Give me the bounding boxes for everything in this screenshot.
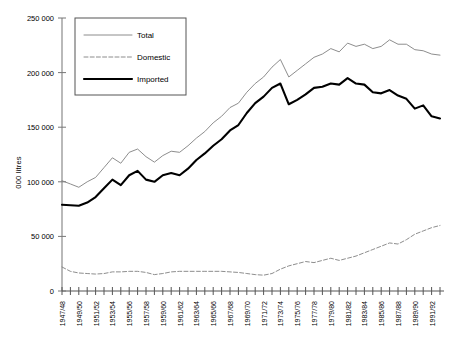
legend-label-imported: Imported xyxy=(137,75,169,84)
x-axis-tick-label: 1989/90 xyxy=(412,301,419,326)
x-axis-tick-label: 1983/84 xyxy=(361,301,368,326)
legend-label-domestic: Domestic xyxy=(137,53,170,62)
x-axis-tick-label: 1947/48 xyxy=(59,301,66,326)
legend-label-total: Total xyxy=(137,31,154,40)
x-axis-tick-label: 1951/52 xyxy=(93,301,100,326)
x-axis-tick-label: 1965/66 xyxy=(210,301,217,326)
y-axis-tick-label: 100 000 xyxy=(27,178,54,187)
x-axis-tick-label: 1979/80 xyxy=(328,301,335,326)
x-axis-tick-label: 1953/54 xyxy=(109,301,116,326)
x-axis-tick-label: 1955/56 xyxy=(126,301,133,326)
line-chart: 050 000100 000150 000200 000250 0001947/… xyxy=(0,0,460,343)
x-axis-tick-label: 1967/68 xyxy=(227,301,234,326)
y-axis-tick-label: 50 000 xyxy=(31,232,54,241)
x-axis-tick-label: 1987/88 xyxy=(395,301,402,326)
x-axis-tick-label: 1975/76 xyxy=(294,301,301,326)
y-axis-tick-label: 200 000 xyxy=(27,69,54,78)
x-axis-tick-label: 1985/86 xyxy=(378,301,385,326)
x-axis-tick-label: 1963/64 xyxy=(193,301,200,326)
x-axis-tick-label: 1969/70 xyxy=(244,301,251,326)
y-axis-tick-label: 150 000 xyxy=(27,123,54,132)
series-line-imported xyxy=(62,78,440,206)
x-axis-tick-label: 1971/72 xyxy=(261,301,268,326)
x-axis-tick-label: 1981/82 xyxy=(345,301,352,326)
y-axis-tick-label: 250 000 xyxy=(27,14,54,23)
x-axis-tick-label: 1957/58 xyxy=(143,301,150,326)
y-axis-tick-label: 0 xyxy=(50,287,54,296)
x-axis-tick-label: 1991/92 xyxy=(429,301,436,326)
chart-container: 000 litres 050 000100 000150 000200 0002… xyxy=(0,0,460,343)
x-axis-tick-label: 1961/62 xyxy=(177,301,184,326)
series-line-domestic xyxy=(62,225,440,275)
x-axis-tick-label: 1977/78 xyxy=(311,301,318,326)
x-axis-tick-label: 1949/50 xyxy=(76,301,83,326)
x-axis-tick-label: 1973/74 xyxy=(277,301,284,326)
x-axis-tick-label: 1959/60 xyxy=(160,301,167,326)
y-axis-title: 000 litres xyxy=(14,138,23,208)
